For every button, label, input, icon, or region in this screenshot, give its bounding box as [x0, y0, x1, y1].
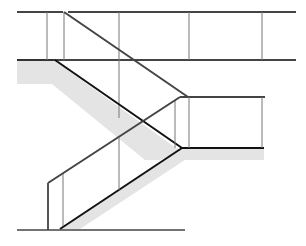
- shading: [17, 61, 264, 229]
- staircase-drawing: [0, 0, 306, 246]
- staircase-diagram: Switchback staircase with railings (elev…: [0, 0, 306, 246]
- middle-landing: [175, 97, 265, 148]
- lower-flight-stringer: [60, 148, 182, 229]
